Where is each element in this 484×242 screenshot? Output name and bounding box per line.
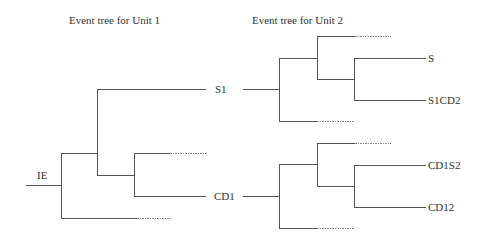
s1-label: S1 xyxy=(215,83,227,95)
s-label: S xyxy=(428,52,434,64)
event-tree-diagram xyxy=(0,0,484,242)
cd12-label: CD12 xyxy=(428,201,454,213)
ie-label: IE xyxy=(37,169,47,181)
cd1s2-label: CD1S2 xyxy=(428,159,460,171)
s1cd2-label: S1CD2 xyxy=(428,94,460,106)
cd1-label: CD1 xyxy=(214,190,235,202)
